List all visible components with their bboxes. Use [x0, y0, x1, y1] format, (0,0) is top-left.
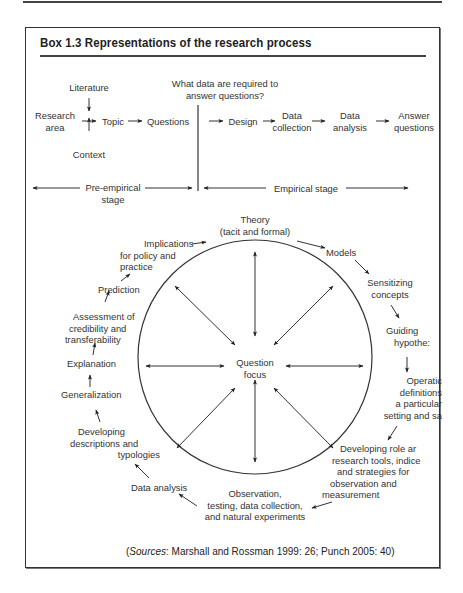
- research-area-label: Research area: [29, 110, 81, 133]
- node-observation: Observation, testing, data collection, a…: [192, 488, 318, 523]
- node-explanation: Explanation: [67, 358, 116, 370]
- step-answer-questions: Answer questions: [389, 110, 439, 133]
- node-descriptions: Developing descriptions and typologies: [70, 426, 160, 461]
- theory-to-models-arrow: [297, 241, 325, 248]
- node-developing-role: Developing role ar research tools, indic…: [322, 443, 442, 501]
- implications-to-theory-arrow: [192, 242, 206, 244]
- sensitizing-to-guiding-arrow: [391, 305, 399, 318]
- step-data-collection: Data collection: [269, 110, 315, 133]
- step-questions: Questions: [143, 116, 193, 128]
- analysis-to-descriptions-arrow: [135, 464, 149, 478]
- node-operational-definitions: Operatic definitions a particular settin…: [362, 375, 442, 421]
- node-models: Models: [326, 247, 356, 259]
- spoke-top-right: [274, 286, 333, 345]
- spoke-bottom-left: [177, 388, 235, 448]
- models-to-sensitizing-arrow: [355, 260, 369, 274]
- spoke-bottom-right: [274, 388, 333, 448]
- node-guiding-hypotheses: Guiding hypothe:: [386, 325, 430, 348]
- node-data-analysis: Data analysis: [131, 482, 187, 494]
- pre-empirical-stage-label: Pre-empirical stage: [80, 182, 146, 205]
- spoke-top-left: [175, 286, 235, 345]
- step-topic: Topic: [96, 116, 130, 128]
- literature-label: Literature: [60, 82, 118, 94]
- center-question-focus: Question focus: [225, 357, 285, 380]
- node-assessment: Assessment of credibility and transferab…: [65, 311, 134, 346]
- node-sensitizing-concepts: Sensitizing concepts: [360, 277, 420, 300]
- node-generalization: Generalization: [61, 389, 121, 401]
- descriptions-to-generalization-arrow: [96, 410, 100, 422]
- node-theory: Theory (tacit and formal): [200, 214, 310, 237]
- empirical-stage-label: Empirical stage: [266, 183, 346, 195]
- prediction-to-implications-arrow: [121, 274, 130, 281]
- question-note: What data are required to answer questio…: [155, 78, 295, 101]
- node-implications: Implications for policy and practice: [120, 238, 194, 273]
- operational-to-role-arrow: [388, 426, 397, 440]
- node-prediction: Prediction: [98, 284, 140, 296]
- context-label: Context: [65, 149, 113, 161]
- step-design: Design: [223, 116, 263, 128]
- step-data-analysis: Data analysis: [326, 110, 374, 133]
- sources-citation: (Sources: Marshall and Rossman 1999: 26;…: [126, 546, 395, 557]
